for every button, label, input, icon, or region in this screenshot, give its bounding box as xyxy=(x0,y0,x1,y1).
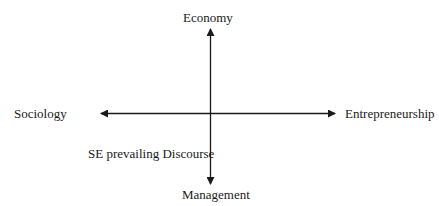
annotation-se-prevailing-discourse: SE prevailing Discourse xyxy=(88,146,214,161)
axis-label-sociology: Sociology xyxy=(14,106,67,121)
axis-label-management: Management xyxy=(182,187,250,202)
axis-label-entrepreneurship: Entrepreneurship xyxy=(345,106,435,121)
quadrant-diagram: Economy Sociology Entrepreneurship SE pr… xyxy=(0,0,439,206)
axis-label-economy: Economy xyxy=(183,10,233,25)
axes-graphic xyxy=(0,0,439,206)
